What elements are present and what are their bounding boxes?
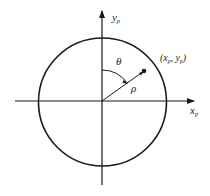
x-axis-label: xp (189, 104, 198, 117)
point-label: (xp, yp) (160, 52, 187, 64)
y-axis-label: yp (111, 11, 120, 24)
point-marker (142, 69, 147, 74)
radius-label: ρ (130, 82, 136, 94)
radius-vector (102, 71, 144, 101)
polar-coordinate-diagram: yp xp θ ρ (xp, yp) (0, 0, 210, 196)
angle-label: θ (116, 55, 122, 67)
